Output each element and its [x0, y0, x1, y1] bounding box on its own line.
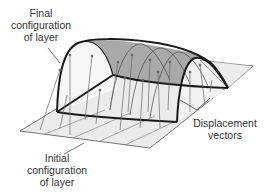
initial-label-line-3: of layer: [20, 176, 94, 188]
final-configuration-label: Final configuration of layer: [6, 7, 76, 43]
final-label-line-2: configuration: [6, 19, 76, 31]
initial-label-line-1: Initial: [20, 152, 94, 164]
initial-label-line-2: configuration: [20, 164, 94, 176]
initial-configuration-label: Initial configuration of layer: [20, 152, 94, 188]
final-label-line-3: of layer: [6, 31, 76, 43]
displacement-label-line-1: Displacement: [190, 117, 260, 129]
displacement-label-line-2: vectors: [190, 129, 260, 141]
final-label-line-1: Final: [6, 7, 76, 19]
displacement-vectors-label: Displacement vectors: [190, 117, 260, 141]
